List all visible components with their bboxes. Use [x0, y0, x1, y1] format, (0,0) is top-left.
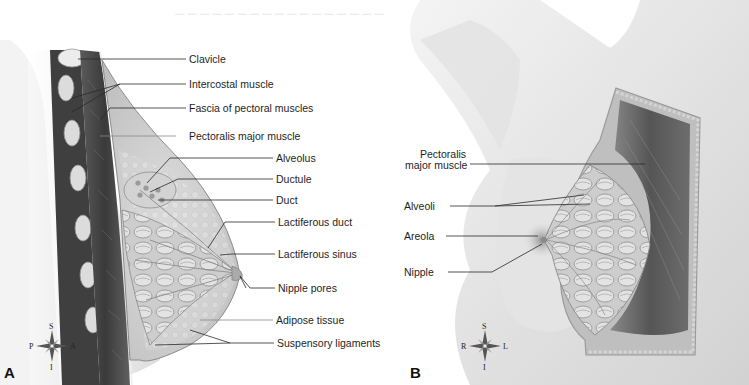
- label-duct: Duct: [276, 194, 298, 206]
- label-lactiferous-duct: Lactiferous duct: [278, 216, 352, 228]
- illustration-canvas: [0, 0, 749, 385]
- label-pectoralis-major-b-line2: major muscle: [405, 159, 467, 171]
- compass-a-superior: S: [49, 322, 53, 331]
- panel-letter-a: A: [4, 364, 15, 381]
- compass-a-inferior: I: [50, 363, 53, 372]
- label-ductule: Ductule: [276, 173, 312, 185]
- label-intercostal-muscle: Intercostal muscle: [189, 78, 274, 90]
- label-clavicle: Clavicle: [189, 53, 226, 65]
- panel-b-illustration: [410, 0, 749, 385]
- label-suspensory-ligaments: Suspensory ligaments: [277, 337, 380, 349]
- compass-a-posterior: P: [29, 342, 33, 351]
- label-nipple-pores: Nipple pores: [278, 282, 337, 294]
- panel-letter-b: B: [410, 364, 421, 381]
- label-areola: Areola: [404, 230, 434, 242]
- compass-b-left: L: [503, 342, 508, 351]
- label-alveolus: Alveolus: [276, 152, 316, 164]
- label-lactiferous-sinus: Lactiferous sinus: [278, 248, 357, 260]
- compass-b-right: R: [461, 342, 466, 351]
- compass-a-anterior: A: [70, 342, 76, 351]
- compass-b-superior: S: [482, 322, 486, 331]
- compass-b-inferior: I: [483, 363, 486, 372]
- label-adipose-tissue: Adipose tissue: [276, 314, 344, 326]
- label-pectoralis-major-a: Pectoralis major muscle: [189, 130, 300, 142]
- label-fascia-pectoral: Fascia of pectoral muscles: [189, 102, 313, 114]
- label-nipple: Nipple: [404, 266, 434, 278]
- label-alveoli: Alveoli: [404, 200, 435, 212]
- panel-a-illustration: [0, 40, 242, 385]
- anatomy-figure: ─ ─ ─ ─ ─ ─ ─ ─ ─ ─ ─ ─ ─ ─ ─ ─ ─: [0, 0, 749, 385]
